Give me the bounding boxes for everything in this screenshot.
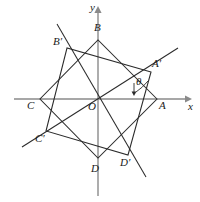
point-label-D-prime: D′ [120, 157, 130, 168]
point-label-B-prime: B′ [53, 36, 62, 47]
y-axis-label: y [90, 2, 95, 13]
point-label-B: B [94, 22, 101, 33]
angle-theta-label: θ [136, 76, 141, 87]
geometry-figure: x y O θ A B C D A′ B′ C′ D′ [0, 0, 200, 202]
point-label-C-prime: C′ [35, 133, 45, 144]
point-label-A: A [159, 100, 166, 111]
angle-arrow-head [132, 92, 137, 97]
origin-label: O [88, 101, 96, 112]
x-axis-label: x [188, 101, 193, 112]
point-label-A-prime: A′ [152, 58, 161, 69]
y-axis-arrowhead [94, 6, 101, 13]
point-label-D: D [91, 163, 99, 174]
point-label-C: C [27, 100, 34, 111]
rays-group [22, 24, 178, 177]
